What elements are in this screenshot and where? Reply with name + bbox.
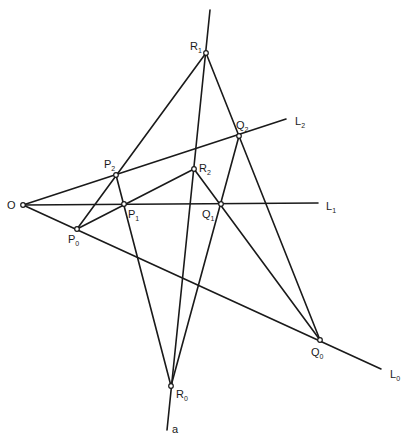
point-q2 [237,134,242,139]
point-o [21,203,26,208]
point-label-p2: P2 [104,158,115,172]
point-q1 [219,202,224,207]
point-r0 [169,384,174,389]
segments-layer [77,53,320,386]
line-label-l0: L0 [390,368,400,382]
point-label-r1: R1 [190,40,202,54]
point-r2 [192,167,197,172]
point-label-q2: Q2 [236,119,249,133]
point-label-r2: R2 [199,162,211,176]
point-q0 [318,338,323,343]
point-label-q0: Q0 [311,346,324,360]
point-p0 [75,227,80,232]
line-label-l2: L2 [295,115,305,129]
line-label-a: a [172,423,179,435]
labels-layer: L0L1L2aOP0P1P2Q0Q1Q2R0R1R2 [7,40,400,435]
segment-r2-q0 [194,169,320,340]
projective-construction-diagram: L0L1L2aOP0P1P2Q0Q1Q2R0R1R2 [0,0,405,439]
point-label-o: O [7,199,16,211]
segment-r1-p0 [77,53,206,229]
point-label-p0: P0 [68,233,79,247]
point-p2 [114,173,119,178]
line-label-l1: L1 [326,200,336,214]
point-p1 [122,202,127,207]
lines-layer [23,10,381,430]
line-l1 [23,203,318,205]
line-a [167,10,210,430]
point-r1 [204,51,209,56]
point-label-p1: P1 [128,208,139,222]
point-label-r0: R0 [176,388,188,402]
point-label-q1: Q1 [202,208,215,222]
